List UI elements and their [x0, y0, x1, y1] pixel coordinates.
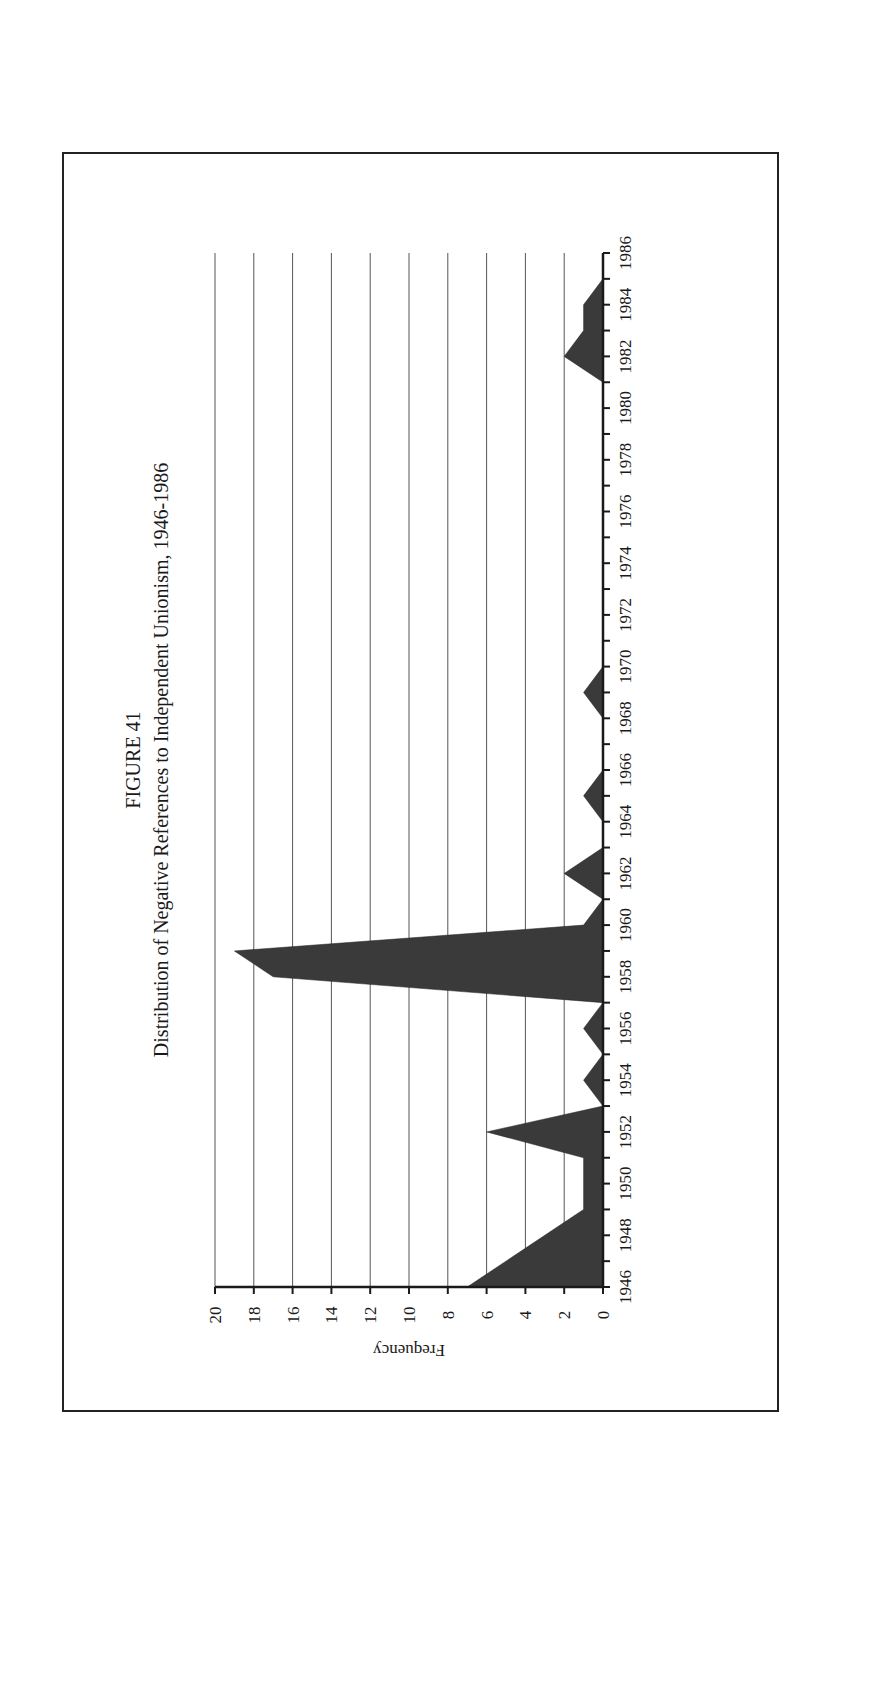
year-tick-label: 1964 [616, 804, 635, 839]
area-series [234, 253, 603, 1287]
year-tick-label: 1968 [616, 701, 635, 735]
year-tick-label: 1966 [616, 753, 635, 787]
frequency-axis: 02468101214161820 [206, 1287, 613, 1324]
frequency-tick-label: 18 [245, 1307, 264, 1324]
year-tick-label: 1980 [616, 391, 635, 425]
frequency-tick-label: 8 [439, 1311, 458, 1320]
year-tick-label: 1978 [616, 443, 635, 477]
year-axis: 1946194819501952195419561958196019621964… [603, 236, 635, 1304]
year-tick-label: 1952 [616, 1115, 635, 1149]
frequency-tick-label: 2 [555, 1311, 574, 1320]
year-tick-label: 1986 [616, 236, 635, 270]
year-tick-label: 1950 [616, 1167, 635, 1201]
year-tick-label: 1948 [616, 1218, 635, 1252]
year-tick-label: 1956 [616, 1012, 635, 1046]
year-tick-label: 1982 [616, 339, 635, 373]
frequency-tick-label: 6 [478, 1311, 497, 1320]
year-tick-label: 1958 [616, 960, 635, 994]
frequency-tick-label: 16 [284, 1307, 303, 1324]
year-tick-label: 1962 [616, 856, 635, 890]
frequency-tick-label: 20 [206, 1307, 225, 1324]
year-tick-label: 1946 [616, 1270, 635, 1304]
year-tick-label: 1974 [616, 546, 635, 581]
frequency-tick-label: 0 [594, 1311, 613, 1320]
year-tick-label: 1984 [616, 287, 635, 322]
frequency-tick-label: 12 [361, 1307, 380, 1324]
frequency-tick-label: 10 [400, 1307, 419, 1324]
year-tick-label: 1960 [616, 908, 635, 942]
year-tick-label: 1976 [616, 495, 635, 529]
year-tick-label: 1970 [616, 650, 635, 684]
year-tick-label: 1972 [616, 598, 635, 632]
frequency-tick-label: 14 [322, 1306, 341, 1324]
area-chart: 02468101214161820Frequency19461948195019… [0, 0, 894, 1688]
year-tick-label: 1954 [616, 1063, 635, 1098]
frequency-axis-title: Frequency [373, 1341, 445, 1360]
frequency-tick-label: 4 [516, 1310, 535, 1319]
